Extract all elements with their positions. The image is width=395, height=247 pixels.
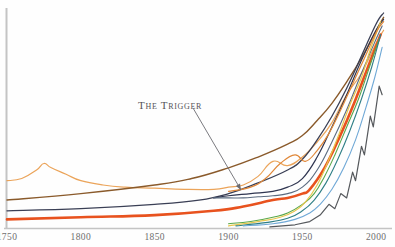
series-orange-red-thick	[7, 35, 381, 220]
x-tick-label-1800: 1800	[70, 232, 91, 242]
series-layer	[7, 13, 384, 227]
series-yellow	[229, 22, 381, 226]
annotation-leader-line	[193, 108, 241, 190]
chart-plot-area	[0, 0, 395, 247]
x-tick-label-1900: 1900	[218, 232, 239, 242]
series-orange-secondary	[229, 22, 384, 192]
x-tick-label-1950: 1950	[292, 232, 313, 242]
annotation-text: The Trigger	[138, 99, 202, 111]
great-acceleration-chart: The Trigger 175018001850190019502000	[0, 0, 395, 247]
x-tick-label-2000: 2000	[366, 232, 387, 242]
x-tick-label-1850: 1850	[144, 232, 165, 242]
series-gray-zigzag	[270, 86, 382, 227]
x-tick-label-1750: 1750	[0, 232, 17, 242]
annotation-the-trigger: The Trigger	[138, 99, 202, 111]
